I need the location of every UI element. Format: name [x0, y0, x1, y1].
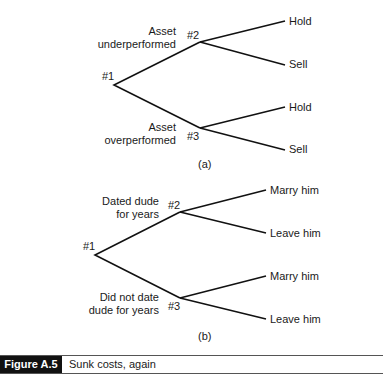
node-2-label: #2 [168, 199, 180, 211]
node-1-label: #1 [102, 70, 114, 82]
leaf-label: Hold [289, 15, 312, 27]
branch-label-lower: Asset overperformed [104, 121, 176, 146]
figure-number: Figure A.5 [0, 356, 62, 373]
branch-label-line: Asset [98, 25, 176, 37]
figure-title: Sunk costs, again [69, 356, 156, 373]
branch-label-upper: Dated dude for years [102, 195, 159, 220]
branch-label-lower: Did not date dude for years [89, 291, 159, 316]
branch-label-line: Dated dude [102, 195, 159, 207]
leaf-label: Hold [289, 101, 312, 113]
leaf-label: Sell [289, 58, 307, 70]
leaf-label: Sell [289, 143, 307, 155]
node-3-label: #3 [168, 300, 180, 312]
node-1-label: #1 [83, 240, 95, 252]
branch-label-upper: Asset underperformed [98, 25, 176, 50]
figure-caption: Figure A.5 Sunk costs, again [0, 355, 383, 374]
leaf-label: Marry him [270, 184, 319, 196]
decision-tree-lines [0, 0, 383, 387]
branch-label-line: underperformed [98, 38, 176, 50]
leaf-label: Marry him [270, 270, 319, 282]
branch-label-line: Did not date [89, 291, 159, 303]
node-2-label: #2 [187, 29, 199, 41]
branch-label-line: Asset [104, 121, 176, 133]
branch-label-line: dude for years [89, 304, 159, 316]
branch-label-line: for years [102, 208, 159, 220]
subfigure-label-a: (a) [198, 158, 211, 170]
leaf-label: Leave him [270, 227, 321, 239]
subfigure-label-b: (b) [198, 330, 211, 342]
branch-label-line: overperformed [104, 134, 176, 146]
leaf-label: Leave him [270, 313, 321, 325]
node-3-label: #3 [187, 130, 199, 142]
